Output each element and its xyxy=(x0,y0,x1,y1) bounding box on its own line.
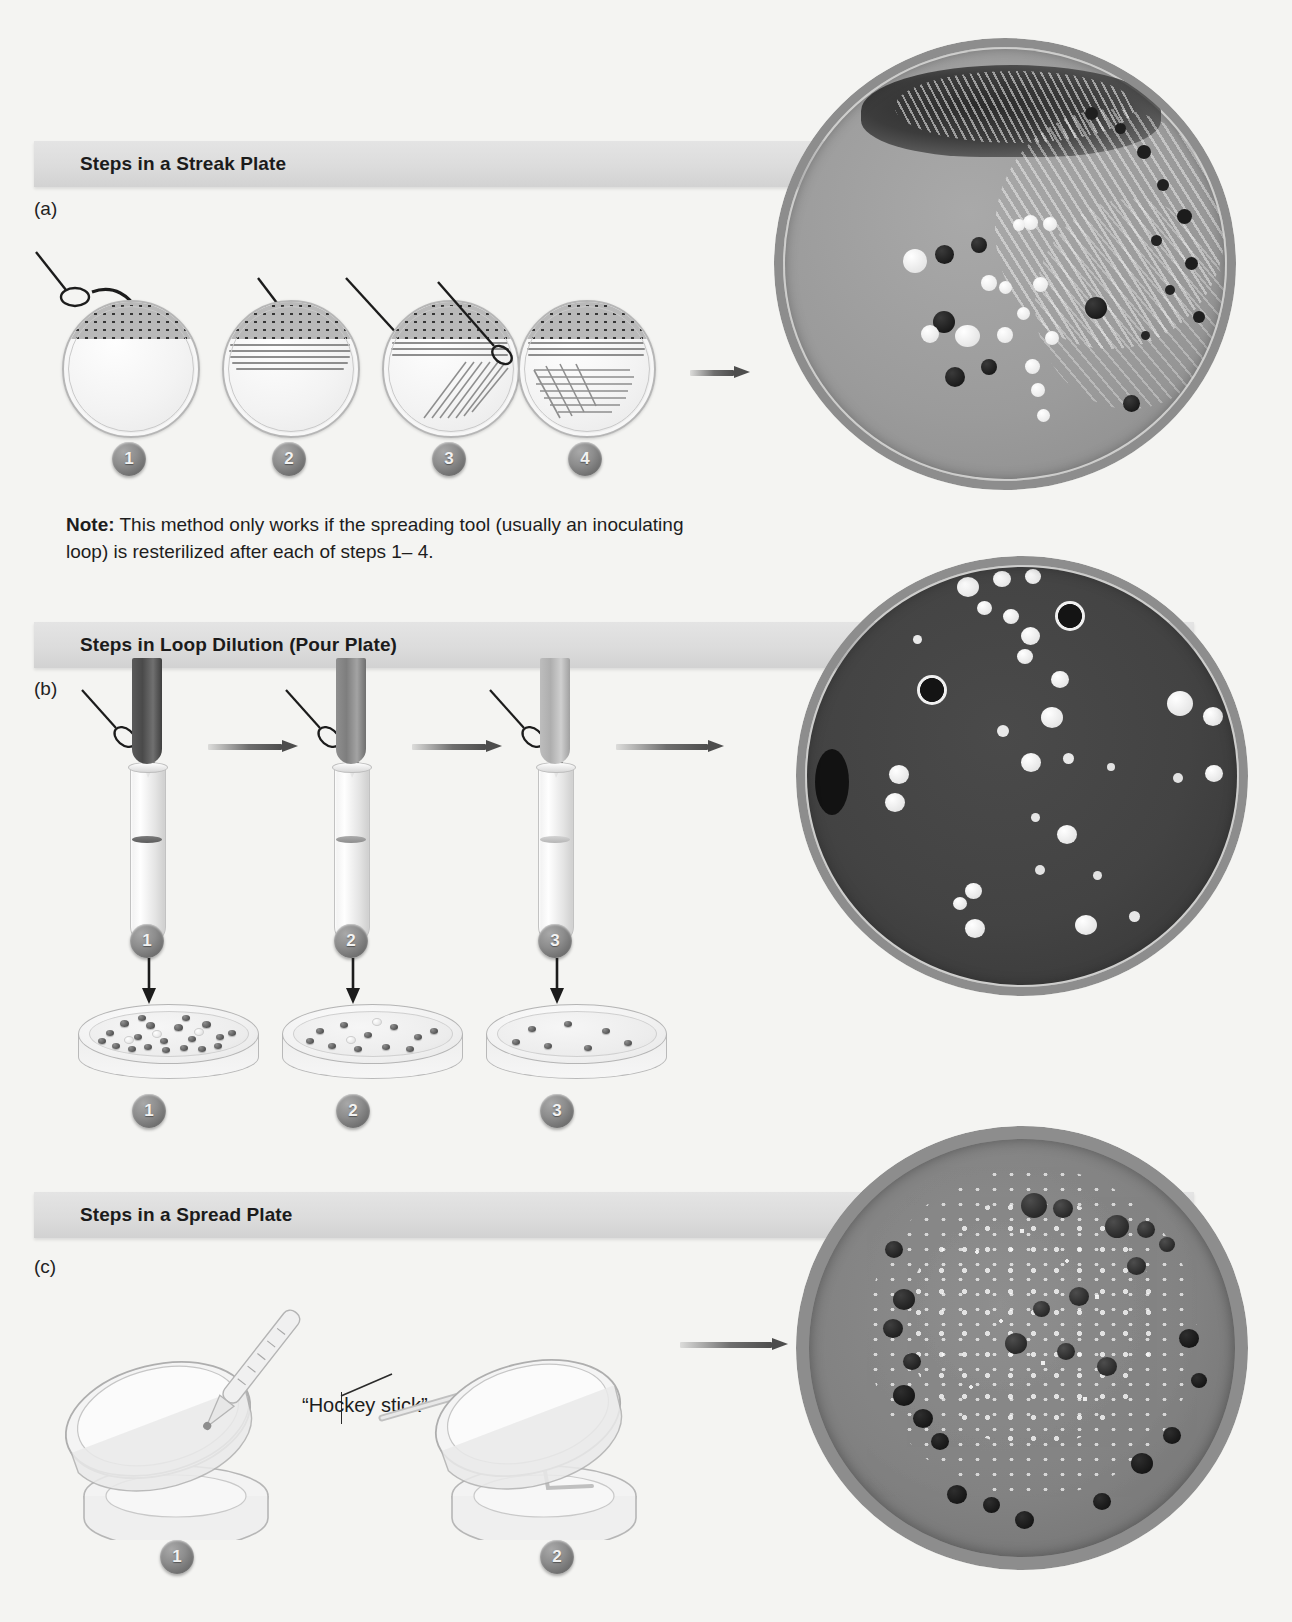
banner-loop-dilution-label: Steps in Loop Dilution (Pour Plate) xyxy=(34,634,397,656)
plate-rim xyxy=(524,306,650,432)
streak-plate-step-4 xyxy=(518,300,656,438)
step-badge-a-3: 3 xyxy=(432,442,466,476)
step-badge-b-tube-1: 1 xyxy=(130,924,164,958)
petri-dish-rim xyxy=(774,38,1236,490)
figure-page: Steps in a Streak Plate (a) 1 2 xyxy=(0,0,1292,1622)
plate-rim xyxy=(228,306,354,432)
plate-rim xyxy=(68,306,194,432)
step-badge-a-4: 4 xyxy=(568,442,602,476)
pour-plate-dish-2 xyxy=(282,1004,464,1090)
flow-arrow-c xyxy=(680,1338,790,1350)
tube-glass xyxy=(538,766,574,944)
step-badge-b-dish-2: 2 xyxy=(336,1094,370,1128)
pour-arrow-3 xyxy=(548,958,566,1004)
streak-plate-photo xyxy=(774,38,1236,490)
step-badge-b-dish-1: 1 xyxy=(132,1094,166,1128)
note-prefix: Note: xyxy=(66,514,115,535)
pour-arrow-2 xyxy=(344,958,362,1004)
tube-meniscus xyxy=(336,836,366,843)
banner-spread-plate-label: Steps in a Spread Plate xyxy=(34,1204,292,1226)
tube-glass xyxy=(130,766,166,944)
streak-plate-note: Note: This method only works if the spre… xyxy=(66,512,686,566)
step-badge-b-tube-2: 2 xyxy=(334,924,368,958)
tube-liquid xyxy=(336,658,366,764)
tube-meniscus xyxy=(132,836,162,843)
flow-arrow-a xyxy=(690,366,750,378)
flow-arrow-b-3 xyxy=(616,740,726,752)
spread-plate-step-2-illustration xyxy=(378,1300,708,1540)
banner-streak-plate-label: Steps in a Streak Plate xyxy=(34,153,286,175)
panel-letter-a: (a) xyxy=(34,198,57,220)
step-badge-b-dish-3: 3 xyxy=(540,1094,574,1128)
step-badge-c-2: 2 xyxy=(540,1540,574,1574)
pour-plate-photo xyxy=(796,556,1248,996)
spread-plate-photo xyxy=(796,1126,1248,1570)
tube-meniscus xyxy=(540,836,570,843)
spread-plate-step-1-illustration xyxy=(48,1300,348,1540)
pour-arrow-1 xyxy=(140,958,158,1004)
panel-letter-c: (c) xyxy=(34,1256,56,1278)
tube-liquid xyxy=(540,658,570,764)
pour-plate-dish-3 xyxy=(486,1004,668,1090)
tube-glass xyxy=(334,766,370,944)
petri-dish-rim xyxy=(796,1126,1248,1570)
step-badge-b-tube-3: 3 xyxy=(538,924,572,958)
step-badge-a-2: 2 xyxy=(272,442,306,476)
step-badge-c-1: 1 xyxy=(160,1540,194,1574)
panel-letter-b: (b) xyxy=(34,678,57,700)
petri-dish-rim xyxy=(796,556,1248,996)
streak-plate-step-1 xyxy=(62,300,200,438)
step-badge-a-1: 1 xyxy=(112,442,146,476)
tube-liquid xyxy=(132,658,162,764)
pour-plate-dish-1 xyxy=(78,1004,260,1090)
note-body: This method only works if the spreading … xyxy=(66,514,683,562)
